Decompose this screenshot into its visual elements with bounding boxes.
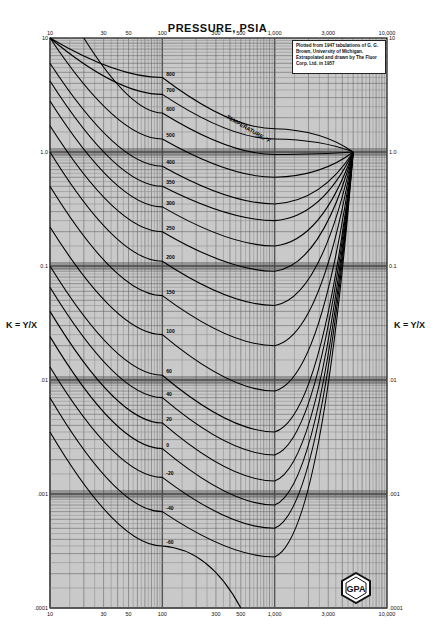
svg-text:10: 10 [42,35,48,41]
svg-text:100: 100 [166,328,175,334]
gpa-logo: GPA [340,572,372,604]
svg-text:.001: .001 [37,491,48,497]
svg-text:400: 400 [166,159,175,165]
svg-text:0.1: 0.1 [40,263,48,269]
svg-text:GPA: GPA [347,584,366,594]
svg-text:3,000: 3,000 [321,30,335,36]
svg-text:-20: -20 [166,470,173,476]
svg-text:150: 150 [166,289,175,295]
svg-text:30: 30 [101,30,107,36]
svg-text:100: 100 [158,30,167,36]
svg-text:0: 0 [166,442,169,448]
svg-text:40: 40 [166,391,172,397]
k-value-chart: 8007006005004003503002502001501006040200… [0,0,435,631]
svg-text:1,000: 1,000 [268,30,282,36]
svg-text:-40: -40 [166,505,173,511]
svg-text:10: 10 [47,611,53,617]
svg-text:500: 500 [236,611,245,617]
svg-text:300: 300 [211,30,220,36]
svg-text:300: 300 [166,200,175,206]
svg-text:1,000: 1,000 [268,611,282,617]
svg-text:0.1: 0.1 [389,263,397,269]
svg-text:500: 500 [236,30,245,36]
svg-text:30: 30 [101,611,107,617]
svg-text:700: 700 [166,87,175,93]
svg-text:.01: .01 [40,377,48,383]
svg-text:50: 50 [125,30,131,36]
svg-text:.001: .001 [389,491,400,497]
svg-text:350: 350 [166,179,175,185]
svg-text:60: 60 [166,368,172,374]
svg-text:1.0: 1.0 [40,149,48,155]
svg-text:-60: -60 [166,539,173,545]
svg-text:10: 10 [389,35,395,41]
svg-text:20: 20 [166,416,172,422]
svg-text:250: 250 [166,225,175,231]
svg-text:800: 800 [166,71,175,77]
svg-text:300: 300 [211,611,220,617]
svg-text:50: 50 [125,611,131,617]
svg-text:500: 500 [166,132,175,138]
svg-text:.01: .01 [389,377,397,383]
svg-text:10,000: 10,000 [379,611,396,617]
svg-text:600: 600 [166,106,175,112]
svg-text:100: 100 [158,611,167,617]
svg-text:.0001: .0001 [34,605,48,611]
source-note: Plotted from 1947 tabulations of G. G. B… [292,40,386,74]
svg-text:.0001: .0001 [389,605,403,611]
svg-text:1.0: 1.0 [389,149,397,155]
svg-text:200: 200 [166,254,175,260]
svg-text:3,000: 3,000 [321,611,335,617]
